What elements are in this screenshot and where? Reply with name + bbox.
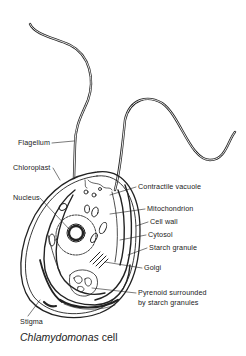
contractile-vacuoles [84, 180, 112, 197]
label-pyrenoid-line1: Pyrenoid surrounded [138, 289, 207, 296]
label-stigma: Stigma [20, 318, 43, 325]
stigma [44, 302, 56, 306]
nucleus [56, 215, 96, 255]
golgi [90, 252, 108, 268]
caption-species: Chlamydomonas [20, 331, 99, 343]
flagellum-right [115, 99, 235, 190]
label-contractile-vacuole: Contractile vacuole [138, 183, 201, 190]
label-flagellum: Flagellum [18, 139, 50, 146]
label-nucleus: Nucleus [13, 194, 40, 201]
label-pyrenoid-line2: by starch granules [138, 299, 199, 306]
label-mitochondrion: Mitochondrion [147, 205, 193, 212]
cell-illustration [0, 0, 246, 356]
label-cytosol: Cytosol [148, 231, 173, 238]
label-starch-granule: Starch granule [149, 244, 197, 251]
figure-caption: Chlamydomonas cell [20, 332, 117, 343]
label-golgi: Golgi [144, 264, 161, 271]
flagellum-left [30, 24, 91, 178]
label-chloroplast: Chloroplast [13, 164, 50, 171]
caption-suffix: cell [99, 331, 118, 343]
label-cell-wall: Cell wall [150, 218, 178, 225]
